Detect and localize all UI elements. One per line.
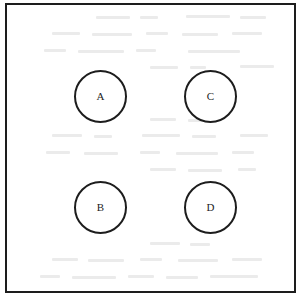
- node-circle-c[interactable]: C: [184, 70, 237, 123]
- figure-canvas: A C B D: [0, 0, 303, 301]
- diagram-border: [5, 3, 296, 293]
- node-label-a: A: [96, 91, 104, 102]
- node-circle-d[interactable]: D: [184, 181, 237, 234]
- node-label-c: C: [207, 91, 215, 102]
- node-label-d: D: [206, 202, 214, 213]
- node-label-b: B: [97, 202, 105, 213]
- node-circle-a[interactable]: A: [74, 70, 127, 123]
- node-circle-b[interactable]: B: [74, 181, 127, 234]
